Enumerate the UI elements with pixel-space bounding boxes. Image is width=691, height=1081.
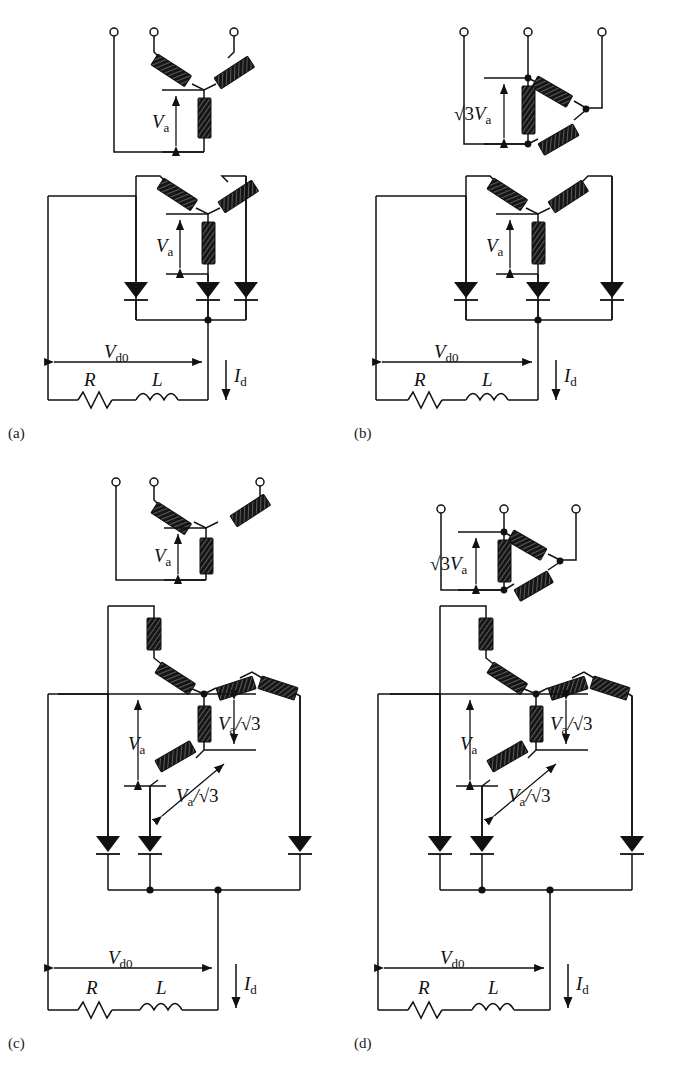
label-R: R bbox=[83, 369, 96, 390]
diode-icon bbox=[600, 282, 624, 320]
panel-d: √3Va Va Va/√3 Va/√3 bbox=[346, 450, 691, 1081]
label-R: R bbox=[417, 977, 430, 998]
panel-b: √3Va Va Vd0 Id R L bbox=[346, 0, 691, 450]
label-Va-over-sqrt3: Va/√3 bbox=[218, 713, 261, 737]
load-branch bbox=[48, 392, 208, 408]
label-Va: Va bbox=[154, 545, 172, 569]
label-Va: Va bbox=[128, 733, 146, 757]
label-sqrt3-Va: √3Va bbox=[430, 553, 468, 577]
load-branch bbox=[48, 1002, 218, 1018]
terminal-icon bbox=[524, 28, 532, 36]
label-L: L bbox=[155, 977, 167, 998]
junction-dot bbox=[214, 886, 221, 893]
panel-caption-b: (b) bbox=[354, 425, 372, 442]
inductor-icon bbox=[466, 394, 508, 401]
label-Va: Va bbox=[460, 733, 478, 757]
junction-dot bbox=[146, 886, 153, 893]
diode-icon bbox=[124, 282, 148, 320]
junction-dot bbox=[546, 886, 553, 893]
phase-legs bbox=[136, 176, 246, 282]
label-Id: Id bbox=[243, 973, 257, 997]
terminal-icon bbox=[150, 478, 158, 486]
inductor-icon bbox=[472, 1004, 514, 1011]
panel-caption-a: (a) bbox=[8, 425, 25, 442]
inductor-icon bbox=[140, 1004, 182, 1011]
dc-left-rail bbox=[48, 694, 108, 1010]
terminal-icon bbox=[230, 28, 238, 36]
junction-dot bbox=[478, 886, 485, 893]
diode-icon bbox=[196, 282, 220, 320]
diode-icon bbox=[526, 282, 550, 320]
label-Va: Va bbox=[486, 235, 504, 259]
dc-bus bbox=[108, 890, 300, 1010]
label-L: L bbox=[487, 977, 499, 998]
load-branch bbox=[376, 392, 538, 408]
terminal-icon bbox=[256, 478, 264, 486]
label-Va-over-sqrt3: Va/√3 bbox=[176, 785, 219, 809]
terminal-icon bbox=[572, 505, 580, 513]
label-L: L bbox=[481, 369, 493, 390]
label-Vd0: Vd0 bbox=[108, 947, 133, 971]
label-Va-over-sqrt3: Va/√3 bbox=[508, 785, 551, 809]
inductor-icon bbox=[136, 394, 178, 401]
diode-icon bbox=[470, 836, 494, 890]
panel-caption-c: (c) bbox=[8, 1035, 25, 1052]
terminal-icon bbox=[112, 478, 120, 486]
label-Vd0: Vd0 bbox=[440, 947, 465, 971]
panel-a: Va Va Vd0 Id bbox=[0, 0, 346, 450]
diode-icon bbox=[234, 282, 258, 320]
terminal-icon bbox=[437, 505, 445, 513]
label-Va-over-sqrt3: Va/√3 bbox=[550, 713, 593, 737]
junction-dot bbox=[557, 558, 564, 565]
label-L: L bbox=[151, 369, 163, 390]
label-Va: Va bbox=[156, 235, 174, 259]
junction-dot bbox=[534, 316, 541, 323]
winding-coil bbox=[479, 618, 630, 772]
figure-sheet: Va Va Vd0 Id bbox=[0, 0, 691, 1081]
panel-c: Va Va Va/√3 Va/√3 bbox=[0, 450, 346, 1081]
junction-dot bbox=[583, 106, 590, 113]
junction-dot bbox=[204, 316, 211, 323]
label-Id: Id bbox=[233, 365, 247, 389]
label-Id: Id bbox=[575, 973, 589, 997]
terminal-icon bbox=[460, 28, 468, 36]
diode-icon bbox=[428, 836, 452, 890]
terminal-icon bbox=[500, 505, 508, 513]
label-Id: Id bbox=[563, 365, 577, 389]
load-branch bbox=[378, 1002, 550, 1018]
diode-icon bbox=[454, 282, 478, 320]
terminal-icon bbox=[110, 28, 118, 36]
label-Vd0: Vd0 bbox=[104, 341, 129, 365]
dc-bus bbox=[440, 890, 632, 1010]
label-R: R bbox=[85, 977, 98, 998]
label-Vd0: Vd0 bbox=[434, 341, 459, 365]
winding-coil bbox=[147, 618, 298, 772]
terminal-icon bbox=[150, 28, 158, 36]
terminal-icon bbox=[598, 28, 606, 36]
diode-icon bbox=[96, 836, 120, 890]
panel-caption-d: (d) bbox=[354, 1035, 372, 1052]
label-Va: Va bbox=[152, 111, 170, 135]
voltage-dimension-sqrt3Va bbox=[484, 78, 528, 144]
dc-left-rail bbox=[378, 694, 440, 1010]
label-R: R bbox=[413, 369, 426, 390]
voltage-dimension-sqrt3Va bbox=[458, 532, 504, 590]
label-sqrt3-Va: √3Va bbox=[454, 103, 492, 127]
diode-icon bbox=[620, 836, 644, 890]
diode-icon bbox=[288, 836, 312, 890]
diode-icon bbox=[138, 836, 162, 890]
